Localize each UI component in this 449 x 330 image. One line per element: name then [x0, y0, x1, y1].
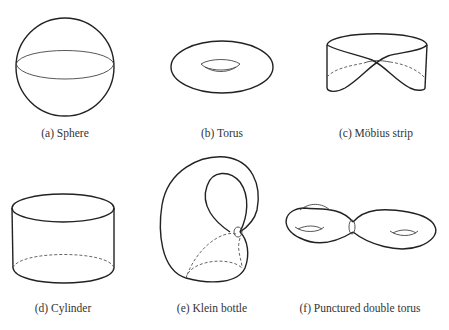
mobius-strip-drawing: [327, 34, 427, 92]
caption-torus: (b) Torus: [201, 127, 243, 139]
caption-sphere: (a) Sphere: [41, 127, 89, 139]
cylinder-drawing: [12, 194, 114, 283]
klein-bottle-drawing: [160, 157, 258, 282]
torus-drawing: [171, 41, 273, 93]
caption-punctured-double-torus: (f) Punctured double torus: [299, 302, 420, 314]
caption-mobius-strip: (c) Möbius strip: [339, 127, 413, 139]
surfaces-figure: [0, 0, 449, 330]
sphere-drawing: [16, 18, 114, 116]
punctured-double-torus-drawing: [286, 204, 436, 249]
caption-cylinder: (d) Cylinder: [35, 302, 92, 314]
caption-klein-bottle: (e) Klein bottle: [177, 302, 247, 314]
